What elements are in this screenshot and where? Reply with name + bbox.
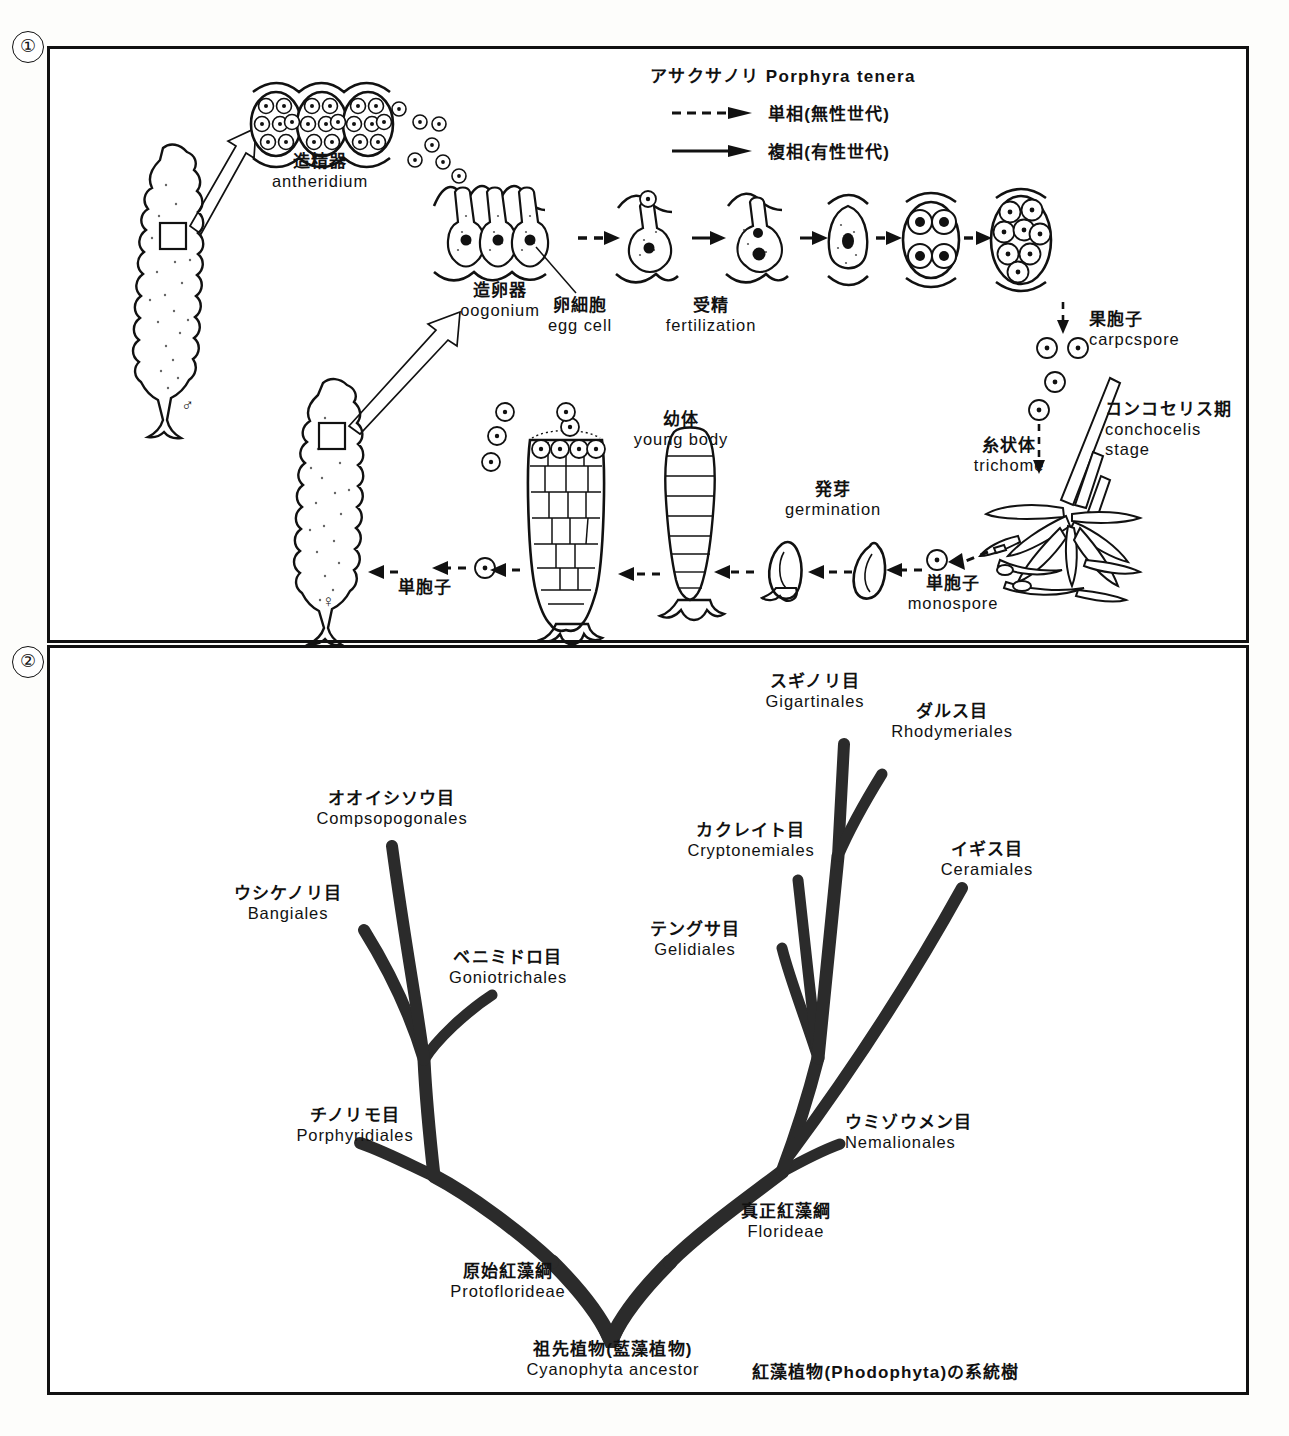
taxon-gigartinales: スギノリ目 Gigartinales: [766, 672, 865, 712]
taxon-rhodymeriales: ダルス目 Rhodymeriales: [891, 702, 1013, 742]
branch-protoflorideae: [434, 1176, 552, 1262]
taxon-gelidiales: テングサ目 Gelidiales: [650, 920, 741, 960]
branch-porphyridiales: [360, 1143, 434, 1176]
branch-goniotrichales: [424, 995, 492, 1060]
taxon-goniotrichales: ベニミドロ目 Goniotrichales: [449, 948, 567, 988]
taxon-cryptonemiales: カクレイト目 Cryptonemiales: [687, 821, 814, 861]
taxon-compsopogonales: オオイシソウ目 Compsopogonales: [316, 789, 467, 829]
taxon-nemalionales: ウミゾウメン目 Nemalionales: [845, 1113, 972, 1153]
taxon-ceramiales: イギス目 Ceramiales: [941, 840, 1033, 880]
branch-root-right: [612, 1262, 670, 1338]
taxon-porphyridiales: チノリモ目 Porphyridiales: [296, 1106, 413, 1146]
taxon-protoflorideae: 原始紅藻綱 Protoflorideae: [450, 1262, 565, 1302]
branch-protoflorideae-upper: [424, 1060, 434, 1176]
branch-gigartinales-trunk: [818, 856, 838, 1058]
phylogenetic-tree-artwork: [0, 0, 1289, 1436]
taxon-bangiales: ウシケノリ目 Bangiales: [234, 884, 342, 924]
taxon-ancestor: 祖先植物(藍藻植物) Cyanophyta ancestor: [526, 1340, 699, 1380]
taxon-florideae: 真正紅藻綱 Florideae: [741, 1202, 832, 1242]
figure-page: ①: [0, 0, 1289, 1436]
figure-caption: 紅藻植物(Phodophyta)の系統樹: [752, 1358, 1020, 1383]
